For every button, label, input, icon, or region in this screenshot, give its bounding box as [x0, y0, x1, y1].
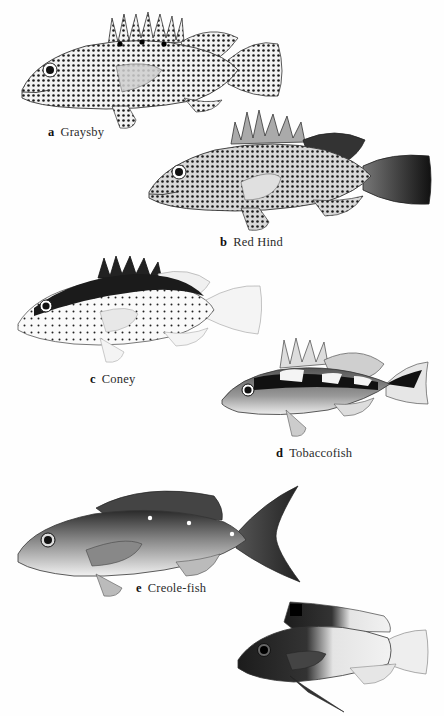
fish-illustration-tobaccofish — [218, 334, 430, 442]
caption-letter: c — [90, 372, 96, 386]
caption-letter: b — [220, 235, 227, 249]
caption-b: bRed Hind — [220, 235, 283, 250]
caption-species-name: Tobaccofish — [289, 446, 352, 460]
field-guide-plate: aGraysby bRed Hin — [0, 0, 444, 716]
caption-species-name: Coney — [102, 372, 136, 386]
caption-d: dTobaccofish — [276, 446, 352, 461]
caption-letter: a — [48, 125, 54, 139]
fish-illustration-red-hind — [145, 104, 433, 232]
fish-illustration-creole-fish — [14, 478, 304, 598]
caption-species-name: Graysby — [60, 125, 104, 139]
caption-species-name: Red Hind — [233, 235, 283, 249]
caption-e: eCreole-fish — [136, 581, 206, 596]
caption-species-name: Creole-fish — [148, 581, 206, 595]
fish-illustration-unlabeled — [234, 596, 430, 714]
caption-a: aGraysby — [48, 125, 104, 140]
caption-c: cConey — [90, 372, 135, 387]
caption-letter: e — [136, 581, 142, 595]
caption-letter: d — [276, 446, 283, 460]
